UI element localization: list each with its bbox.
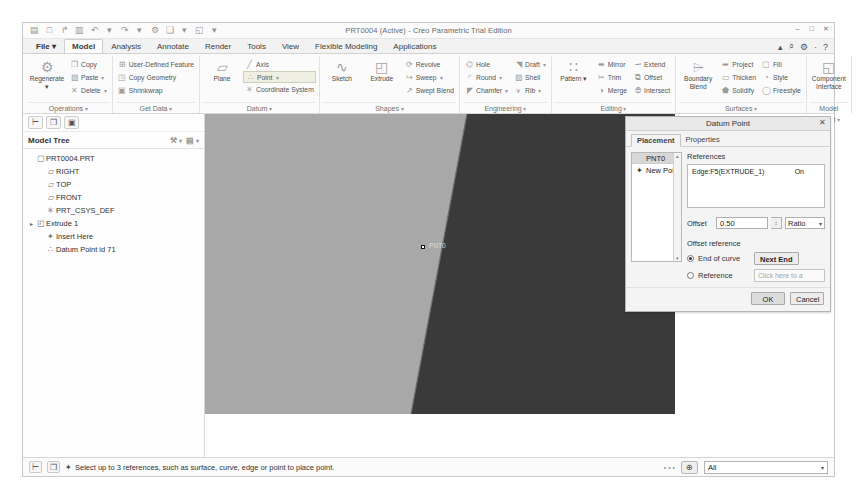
ribbon-button-sketch[interactable]: ∿Sketch (323, 58, 361, 83)
cancel-button[interactable]: Cancel (790, 292, 824, 305)
tree-item-top[interactable]: ▱TOP (27, 178, 204, 191)
ribbon-button-project[interactable]: ➦Project (719, 58, 758, 71)
show-tree-icon[interactable]: ⊢ (29, 461, 42, 473)
ribbon-button-solidify[interactable]: ⬟Solidify (719, 84, 758, 97)
minimize-icon[interactable]: – (793, 24, 802, 33)
ribbon-button-coordinate-system[interactable]: ✳Coordinate System (243, 83, 316, 96)
tree-item-front[interactable]: ▱FRONT (27, 191, 204, 204)
reference-type[interactable]: On (795, 168, 820, 204)
regenerate-icon[interactable]: ⚙ (149, 25, 160, 36)
ribbon-button-swept-blend[interactable]: ↗Swept Blend (403, 84, 456, 97)
favorites-icon[interactable]: ▣ (64, 116, 79, 129)
ribbon-button-regenerate[interactable]: ⚙Regenerate ▾ (28, 58, 66, 90)
ribbon-group-title[interactable]: Datum (203, 102, 316, 113)
layers-icon[interactable]: ❐ (47, 461, 60, 473)
offset-reference-option-reference[interactable]: Reference Click here to a (687, 269, 825, 282)
ribbon-button-user-defined-feature[interactable]: ⊞User-Defined Feature (116, 58, 196, 71)
tab-tools[interactable]: Tools (239, 39, 274, 53)
ribbon-button-copy[interactable]: ❐Copy (68, 58, 109, 71)
scroll-up-icon[interactable]: ▴ (676, 153, 679, 159)
ribbon-button-shell[interactable]: ▨Shell (512, 71, 548, 84)
ribbon-button-draft[interactable]: ◥Draft▾ (512, 58, 548, 71)
repaint-dropdown-icon[interactable]: ▾ (179, 25, 190, 36)
help-icon[interactable]: ? (823, 42, 828, 52)
model-tree-toolbar[interactable]: ⊢❐▣ (23, 114, 204, 132)
ribbon-button-style[interactable]: ◔Style (760, 71, 803, 84)
chevron-down-icon[interactable]: ▾ (276, 74, 279, 81)
ribbon-button-fill[interactable]: ▢Fill (760, 58, 803, 71)
tab-annotate[interactable]: Annotate (149, 39, 197, 53)
undo-dropdown-icon[interactable]: ▾ (104, 25, 115, 36)
ribbon-button-revolve[interactable]: ⟳Revolve (403, 58, 456, 71)
chevron-down-icon[interactable]: ▾ (505, 87, 508, 94)
ok-button[interactable]: OK (751, 292, 785, 305)
expand-arrow-icon[interactable]: ▸ (27, 220, 35, 227)
offset-input[interactable]: 0.50 (716, 217, 768, 229)
ribbon-group-title[interactable]: Surfaces (679, 102, 803, 113)
offset-spinner-icon[interactable]: ↕ (771, 217, 782, 229)
ribbon-button-component-interface[interactable]: ◱Component Interface (810, 58, 848, 90)
ribbon-button-shrinkwrap[interactable]: ▣Shrinkwrap (116, 84, 196, 97)
reference-name[interactable]: Edge:F5(EXTRUDE_1) (692, 168, 764, 204)
ribbon-button-offset[interactable]: ⧉Offset (631, 71, 672, 84)
tab-render[interactable]: Render (197, 39, 239, 53)
layers-icon[interactable]: ❐ (46, 116, 61, 129)
settings-icon[interactable]: ⚙ (800, 42, 808, 52)
ribbon-button-boundary-blend[interactable]: ⌲Boundary Blend (679, 58, 717, 90)
tab-flexible-modeling[interactable]: Flexible Modeling (307, 39, 385, 53)
settings-chevron-icon[interactable]: ▾ (196, 137, 199, 144)
point-list[interactable]: PNT0 ✦ New Point ▴ ▾ (631, 152, 682, 262)
offset-reference-option-end-of-curve[interactable]: End of curve Next End (687, 252, 825, 265)
tab-model[interactable]: Model (64, 39, 103, 53)
ribbon-button-point[interactable]: ∴Point▾ (243, 71, 316, 83)
redo-dropdown-icon[interactable]: ▾ (134, 25, 145, 36)
tab-placement[interactable]: Placement (631, 134, 681, 147)
ribbon-button-merge[interactable]: ◑Merge (595, 84, 629, 97)
tree-item-prt0004-prt[interactable]: ▢PRT0004.PRT (27, 152, 204, 165)
ribbon-button-trim[interactable]: ✂Trim (595, 71, 629, 84)
save-as-icon[interactable]: ↱ (59, 25, 70, 36)
datum-point-dialog[interactable]: Datum Point ✕ Placement Properties PNT0 … (625, 116, 831, 312)
datum-point-marker[interactable] (421, 245, 425, 249)
offset-unit-select[interactable]: Ratio ▾ (785, 217, 825, 229)
quick-access-toolbar[interactable]: ▤□↱▥↶▾↷▾⚙❑▾◱▾ (23, 25, 220, 36)
ribbon-button-copy-geometry[interactable]: ◳Copy Geometry (116, 71, 196, 84)
dialog-close-icon[interactable]: ✕ (819, 118, 826, 127)
radio-reference[interactable] (687, 272, 694, 279)
point-list-scrollbar[interactable]: ▴ ▾ (673, 153, 681, 261)
ribbon-button-intersect[interactable]: ⨸Intersect (631, 84, 672, 97)
chevron-down-icon[interactable]: ▾ (543, 61, 546, 68)
tree-item-right[interactable]: ▱RIGHT (27, 165, 204, 178)
window-icon[interactable]: ◱ (194, 25, 205, 36)
filter-icon[interactable]: ⚒ (170, 136, 177, 145)
ribbon-button-paste[interactable]: ▧Paste▾ (68, 71, 109, 84)
chevron-down-icon[interactable]: ▾ (104, 87, 107, 94)
ribbon-group-title[interactable]: Get Data (116, 102, 196, 113)
ribbon[interactable]: ⚙Regenerate ▾❐Copy▧Paste▾✕Delete▾Operati… (23, 54, 834, 114)
ribbon-button-sweep[interactable]: ↪Sweep▾ (403, 71, 456, 84)
ribbon-group-title[interactable]: Model Intent (810, 102, 848, 113)
chevron-down-icon[interactable]: ▾ (499, 74, 502, 81)
reference-collector-field[interactable]: Click here to a (754, 269, 825, 282)
tab-view[interactable]: View (274, 39, 307, 53)
tab-applications[interactable]: Applications (385, 39, 444, 53)
tree-item-datum-point-id-71[interactable]: ∴Datum Point id 71 (27, 243, 204, 256)
radio-end-of-curve[interactable] (687, 255, 694, 262)
tree-item-insert-here[interactable]: ✦Insert Here (27, 230, 204, 243)
references-table[interactable]: Edge:F5(EXTRUDE_1) On (687, 164, 825, 208)
ribbon-button-thicken[interactable]: ▭Thicken (719, 71, 758, 84)
undo-icon[interactable]: ↶ (89, 25, 100, 36)
ribbon-help-bar[interactable]: ▴⌕⚙·? (778, 41, 834, 53)
dialog-tabs[interactable]: Placement Properties (626, 131, 830, 147)
ribbon-button-hole[interactable]: ⌬Hole (463, 58, 510, 71)
ribbon-group-title[interactable]: Operations (28, 102, 109, 113)
settings-icon[interactable]: ▤ (186, 136, 194, 145)
chevron-down-icon[interactable]: ▾ (101, 74, 104, 81)
tab-file[interactable]: File ▾ (28, 39, 64, 53)
open-icon[interactable]: □ (44, 25, 55, 36)
save-icon[interactable]: ▥ (74, 25, 85, 36)
ribbon-button-mirror[interactable]: ⬌Mirror (595, 58, 629, 71)
tree-item-prt-csys-def[interactable]: ✳PRT_CSYS_DEF (27, 204, 204, 217)
show-tree-icon[interactable]: ⊢ (28, 116, 43, 129)
ribbon-button-chamfer[interactable]: ◤Chamfer▾ (463, 84, 510, 97)
